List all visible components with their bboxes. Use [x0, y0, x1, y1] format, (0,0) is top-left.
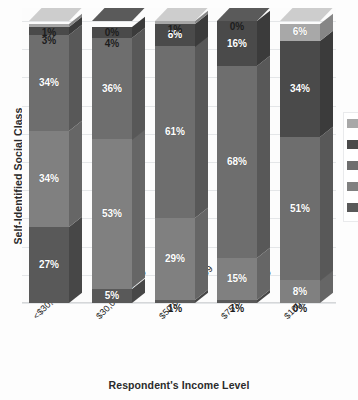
bar-top-cap: [217, 8, 257, 21]
bar-segment-side-face: [69, 121, 82, 227]
legend-swatch: [347, 182, 358, 191]
bar-segment-side-face: [195, 208, 208, 300]
legend-item[interactable]: Middle class: [347, 156, 358, 176]
bar-group[interactable]: 27%34%34%3%1%: [29, 8, 82, 303]
bar-top-cap: [280, 8, 320, 21]
bar-segment-value-label: 16%: [217, 39, 257, 49]
bar-segment-value-label: 34%: [29, 174, 69, 184]
bar-segment-value-label: 0%: [280, 304, 320, 314]
bar-segment-value-label: 53%: [92, 209, 132, 219]
bar-top-cap: [29, 8, 69, 21]
bar-segment-side-face: [69, 25, 82, 131]
bar-segment-value-label: 68%: [217, 157, 257, 167]
bar-segment-value-label: 4%: [92, 39, 132, 49]
bar-segment-side-face: [69, 217, 82, 303]
bar-segment-value-label: 51%: [280, 204, 320, 214]
bar-segment-side-face: [132, 28, 145, 140]
bar-group[interactable]: 1%29%61%8%1%: [155, 8, 208, 303]
bar-group[interactable]: 1%15%68%16%0%: [217, 8, 270, 303]
stacked-bar-chart: Self-Identified Social Class 27%34%34%3%…: [0, 0, 358, 400]
bar-segment-value-label: 15%: [217, 274, 257, 284]
bar-segment-value-label: 0%: [217, 22, 257, 32]
bar-top-cap: [92, 8, 132, 21]
bar-segment-side-face: [132, 129, 145, 289]
legend-item[interactable]: Upper-middle class: [347, 135, 358, 155]
bar-top-cap: [155, 8, 195, 21]
bar-stack: 0%8%51%34%6%: [280, 21, 320, 303]
bar-top-cap-face: [92, 8, 145, 21]
bar-segment-side-face: [257, 56, 270, 258]
bar-segment-value-label: 8%: [280, 287, 320, 297]
bar-segment-value-label: 1%: [29, 28, 69, 38]
bar-segment-value-label: 34%: [280, 84, 320, 94]
bar-stack: 27%34%34%3%1%: [29, 21, 69, 303]
plot-area: 27%34%34%3%1%5%53%36%4%0%1%29%61%8%1%1%1…: [22, 8, 336, 303]
bar-group[interactable]: 0%8%51%34%6%: [280, 8, 333, 303]
legend-swatch: [347, 119, 358, 128]
bar-segment-value-label: 1%: [217, 304, 257, 314]
bar-segment-value-label: 5%: [92, 291, 132, 301]
x-axis-title: Respondent's Income Level: [0, 379, 358, 391]
bar-segment-value-label: 29%: [155, 254, 195, 264]
bar-stack: 5%53%36%4%0%: [92, 21, 132, 303]
legend-swatch: [347, 140, 358, 149]
legend-swatch: [347, 203, 358, 212]
legend-item[interactable]: Working class: [347, 177, 358, 197]
bar-segment-value-label: 27%: [29, 260, 69, 270]
legend-item[interactable]: Upper class: [347, 114, 358, 134]
bar-segment-value-label: 34%: [29, 78, 69, 88]
bar-segment-side-face: [320, 126, 333, 280]
bar-segment-value-label: 1%: [155, 25, 195, 35]
bar-segment-value-label: 36%: [92, 84, 132, 94]
bar-segment-value-label: 6%: [280, 27, 320, 37]
bar-segment-value-label: 61%: [155, 127, 195, 137]
legend: Upper classUpper-middle classMiddle clas…: [343, 112, 358, 222]
bar-segment-value-label: 0%: [92, 28, 132, 38]
bar-segment-side-face: [320, 31, 333, 137]
bar-group[interactable]: 5%53%36%4%0%: [92, 8, 145, 303]
bar-stack: 1%29%61%8%1%: [155, 21, 195, 303]
legend-item[interactable]: Lower class: [347, 198, 358, 218]
legend-swatch: [347, 161, 358, 170]
bar-stack: 1%15%68%16%0%: [217, 21, 257, 303]
bar-segment-value-label: 1%: [155, 304, 195, 314]
bar-segment-side-face: [195, 36, 208, 218]
